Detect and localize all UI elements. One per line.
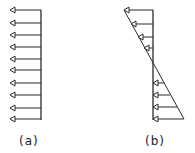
label-a: (a): [19, 134, 39, 148]
arrowhead-icon: [10, 7, 15, 13]
arrowhead-icon: [153, 116, 158, 122]
arrowhead-icon: [153, 80, 158, 86]
arrowhead-icon: [10, 80, 15, 86]
arrowhead-icon: [131, 21, 136, 27]
arrowhead-icon: [10, 92, 15, 98]
arrowhead-icon: [10, 105, 15, 111]
arrowhead-icon: [10, 56, 15, 62]
arrowhead-icon: [153, 92, 158, 98]
varying-load-diagram: [124, 7, 184, 122]
uniform-load-diagram: [10, 7, 41, 122]
arrowhead-icon: [10, 67, 15, 73]
diagram-canvas: [0, 0, 195, 153]
arrowhead-icon: [153, 104, 158, 110]
arrowhead-icon: [10, 116, 15, 122]
label-b: (b): [145, 134, 165, 148]
arrowhead-icon: [10, 32, 15, 38]
arrowhead-icon: [10, 20, 15, 26]
arrowhead-icon: [10, 44, 15, 50]
